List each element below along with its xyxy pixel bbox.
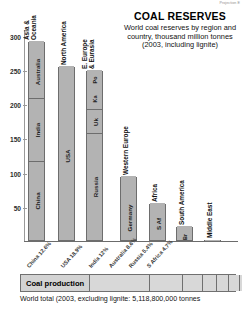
bar: ChinaIndiaAustralia xyxy=(28,42,45,242)
bar-segment-label: Germany xyxy=(125,204,132,231)
bar-group: BrSouth America xyxy=(176,227,193,242)
projection-credit: Projection E xyxy=(219,1,240,5)
bar: Br xyxy=(176,227,193,242)
bar: USA xyxy=(58,67,75,242)
bar-segment xyxy=(177,226,192,234)
bar: Germany xyxy=(120,177,137,242)
bar-segment-label: India xyxy=(33,123,40,137)
y-axis-tick-label: 100 xyxy=(10,170,21,177)
bar-segment-label: Uk xyxy=(91,118,98,126)
bar-group: USANorth America xyxy=(58,67,75,242)
bar-segment-label: Br xyxy=(182,234,188,240)
bar: S Af xyxy=(149,204,166,242)
bar-segment-label: Russia xyxy=(91,177,98,197)
bar-segment xyxy=(59,66,74,72)
coal-production-strip: Coal production xyxy=(20,274,236,292)
bar-segment: Uk xyxy=(87,110,102,133)
bar-group: ChinaIndiaAustraliaAsia &Oceania xyxy=(28,42,45,242)
bar-region-label-text: North America xyxy=(60,21,67,65)
y-axis-line xyxy=(24,30,25,242)
bar-region-label-text: Asia &Oceania xyxy=(23,15,37,40)
y-axis-tick xyxy=(23,208,27,209)
bar-segment: China xyxy=(29,162,44,241)
country-share-label: India 12% xyxy=(88,246,110,269)
bar-segment-label: Po xyxy=(92,76,98,83)
production-segment xyxy=(229,275,240,291)
bar-region-label-text: Africa xyxy=(151,184,158,202)
bar-segment xyxy=(29,41,44,46)
bar-segment: Br xyxy=(177,233,192,241)
y-axis-tick xyxy=(23,174,27,175)
bar-segment xyxy=(205,240,220,242)
y-axis-tick-label: 250 xyxy=(10,68,21,75)
y-axis-tick xyxy=(23,139,27,140)
page-title: COAL RESERVES xyxy=(120,10,240,22)
bar-group: S AfAfrica xyxy=(149,204,166,242)
bar-segment: USA xyxy=(59,72,74,241)
bar-segment: Germany xyxy=(121,195,136,241)
production-segment xyxy=(203,275,217,291)
country-share-label: USA 18.9% xyxy=(60,243,84,269)
bar: RussiaUkKaPo xyxy=(86,71,103,242)
bar-segment-label: Ka xyxy=(92,96,98,103)
bar-segment-label: USA xyxy=(63,150,70,163)
bar-segment-label: S Af xyxy=(154,218,161,230)
world-total-footnote: World total (2003, excluding lignite: 5,… xyxy=(20,295,242,303)
production-segment xyxy=(150,275,183,291)
bar-segment-label: Australia xyxy=(33,59,40,85)
y-axis-tick xyxy=(23,105,27,106)
chart-plot-area: 50100150200250300ChinaIndiaAustraliaAsia… xyxy=(24,30,238,242)
bar-region-label-text: South America xyxy=(178,180,185,225)
bar-segment: Ka xyxy=(87,89,102,110)
bar-segment: S Af xyxy=(150,208,165,242)
bar xyxy=(204,240,221,242)
bar-segment: Po xyxy=(87,70,102,89)
bar-group: Middle East xyxy=(204,240,221,242)
bar-segment: Australia xyxy=(29,46,44,99)
bar-group: RussiaUkKaPoE. Europe& Eurasia xyxy=(86,71,103,242)
country-share-label: China 12.6% xyxy=(26,240,53,269)
bar-segment-label: China xyxy=(33,193,40,210)
y-axis-tick xyxy=(23,71,27,72)
y-axis-tick-label: 300 xyxy=(10,33,21,40)
y-axis-tick-label: 150 xyxy=(10,136,21,143)
bar-segment xyxy=(121,176,136,195)
y-axis-tick-label: 200 xyxy=(10,102,21,109)
bar-region-label-text: Western Europe xyxy=(122,126,129,175)
country-share-labels: China 12.6%USA 18.9%India 12%Australia 8… xyxy=(24,243,238,269)
bar-segment xyxy=(150,203,165,207)
production-segment xyxy=(183,275,203,291)
production-segment xyxy=(240,275,242,291)
bar-segment: Russia xyxy=(87,134,102,241)
y-axis-tick-label: 50 xyxy=(14,204,21,211)
coal-production-label-cell: Coal production xyxy=(21,275,90,291)
bar-segment: India xyxy=(29,99,44,162)
production-segment xyxy=(217,275,229,291)
coal-reserves-infographic: Projection E COAL RESERVES World coal re… xyxy=(0,0,242,309)
bar-group: GermanyWestern Europe xyxy=(120,177,137,242)
bar-region-label-text: Middle East xyxy=(206,202,213,238)
production-segment xyxy=(90,275,150,291)
coal-production-label: Coal production xyxy=(26,279,84,288)
bar-region-label-text: E. Europe& Eurasia xyxy=(81,39,95,69)
